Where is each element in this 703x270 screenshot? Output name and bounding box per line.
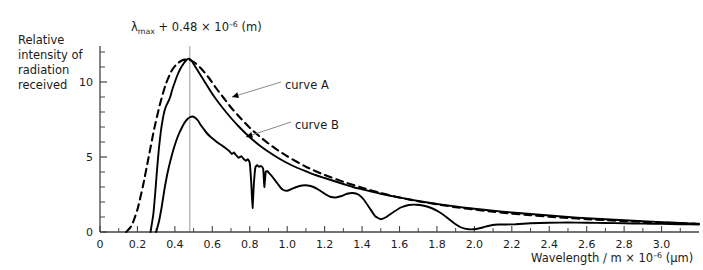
curve-b-label: curve B [295, 118, 339, 132]
y-axis-label-line-1: Relative [18, 33, 64, 47]
y-tick-label: 5 [86, 151, 93, 164]
x-tick-label: 2.2 [503, 238, 521, 251]
x-tick-label: 3.0 [653, 238, 671, 251]
y-axis-label-line-4: received [18, 78, 67, 92]
y-tick-label: 10 [79, 76, 93, 89]
x-tick-label: 1.0 [278, 238, 296, 251]
y-axis-label: Relative intensity of radiation received [18, 33, 84, 92]
annot-tail: (m) [238, 20, 262, 34]
y-axis-tick-labels: 0510 [79, 76, 93, 239]
x-tick-label: 2.4 [541, 238, 559, 251]
y-tick-label: 0 [86, 226, 93, 239]
xlabel-main: Wavelength / m × 10 [531, 251, 653, 265]
x-tick-label: 0.8 [241, 238, 259, 251]
annot-exponent: –6 [229, 20, 238, 29]
x-tick-label: 1.8 [428, 238, 446, 251]
y-axis-label-line-2: intensity of [18, 48, 84, 62]
annot-rest: + 0.48 × 10 [155, 20, 229, 34]
xlabel-exponent: –6 [653, 251, 662, 260]
xlabel-unit: (μm) [662, 251, 693, 265]
curve-b-leader-line [246, 122, 291, 137]
x-tick-label: 2.6 [578, 238, 596, 251]
curve-b-path [156, 116, 699, 232]
x-axis-tick-labels: 00.20.40.60.81.01.21.41.61.82.02.22.42.6… [97, 238, 671, 251]
x-tick-label: 0.6 [204, 238, 222, 251]
curve-a-leader-line [232, 82, 281, 97]
blackbody-dashed-curve [126, 59, 695, 232]
x-tick-label: 0 [97, 238, 104, 251]
x-tick-label: 0.4 [166, 238, 184, 251]
x-axis-ticks [100, 226, 680, 232]
x-tick-label: 2.8 [615, 238, 633, 251]
x-tick-label: 0.2 [129, 238, 147, 251]
svg-text:λmax + 0.48 × 10–6 (m): λmax + 0.48 × 10–6 (m) [131, 20, 262, 36]
curve-a-arrowhead [232, 92, 239, 98]
x-tick-label: 1.6 [391, 238, 409, 251]
curve-a-label: curve A [285, 78, 329, 92]
radiation-spectrum-chart: Relative intensity of radiation received… [0, 0, 703, 270]
x-tick-label: 2.0 [466, 238, 484, 251]
svg-text:Wavelength / m × 10–6 (μm): Wavelength / m × 10–6 (μm) [531, 251, 693, 265]
x-axis-title: Wavelength / m × 10–6 (μm) [531, 251, 693, 265]
y-axis-label-line-3: radiation [18, 63, 69, 77]
x-tick-label: 1.4 [353, 238, 371, 251]
lambda-max-annotation: λmax + 0.48 × 10–6 (m) [131, 20, 262, 36]
annot-sub: max [138, 27, 155, 36]
x-tick-label: 1.2 [316, 238, 334, 251]
y-axis-ticks [100, 52, 107, 232]
